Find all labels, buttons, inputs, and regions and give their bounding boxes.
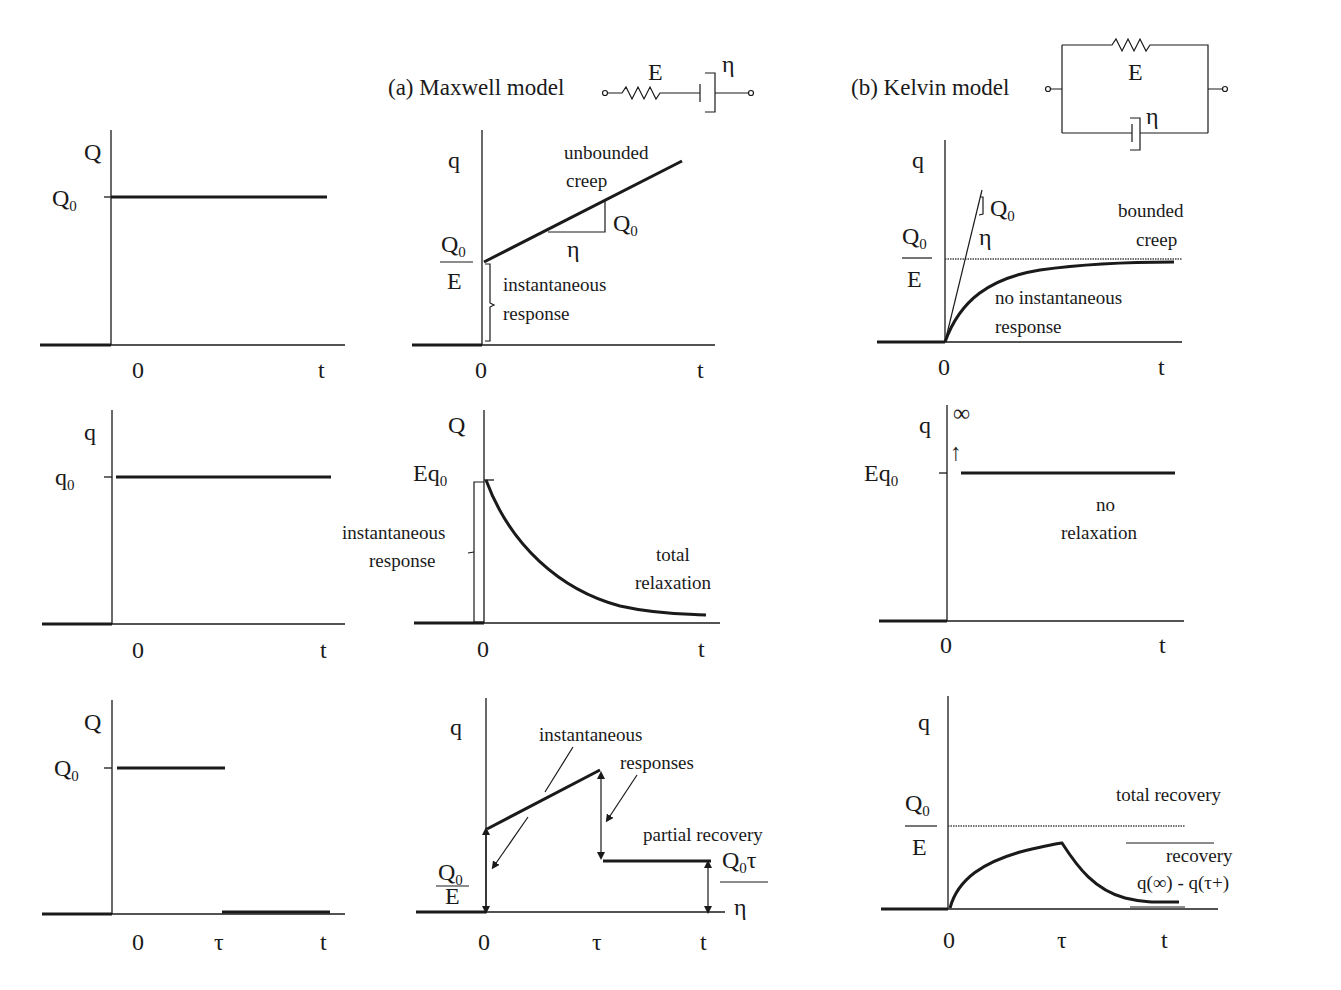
x-tick-tau: τ — [214, 929, 224, 955]
svg-text:η: η — [734, 894, 747, 920]
y-axis-label: Q — [448, 412, 465, 438]
x-axis-label: t — [697, 357, 704, 383]
x-tick-tau: τ — [592, 929, 602, 955]
y-tick-Q0-over-E: Q0 E E — [436, 859, 469, 909]
x-axis-label: t — [698, 636, 705, 662]
x-axis-label: t — [1161, 927, 1168, 953]
svg-text:E: E — [912, 834, 927, 860]
y-axis-label: q — [84, 419, 96, 445]
annotation-recovery-expr: q(∞) - q(τ+) — [1137, 872, 1229, 894]
y-tick-Q0-over-E: Q0 E — [902, 223, 932, 292]
kelvin-title: (b) Kelvin model — [851, 75, 1009, 100]
maxwell-spring-label: E — [648, 59, 663, 85]
kelvin-title-group: (b) Kelvin model E η — [851, 39, 1228, 150]
annotation-total: total — [656, 544, 690, 565]
slope-Q0: Q0 — [613, 210, 638, 239]
panel-relaxation-input: q q0 0 t — [42, 410, 345, 663]
panel-kelvin-creep: q Q0 E Q0 η bounded creep no instantaneo… — [877, 140, 1184, 380]
y-axis-label: q — [918, 709, 930, 735]
annotation-response: response — [995, 316, 1061, 337]
up-arrow-icon: ↑ — [950, 439, 962, 465]
y-axis-label: q — [450, 714, 462, 740]
y-tick-Eq0: Eq0 — [413, 460, 447, 489]
svg-text:Q0: Q0 — [441, 231, 466, 260]
slope-eta: η — [979, 224, 992, 250]
kelvin-dashpot-label: η — [1146, 103, 1159, 129]
annotation-responses: responses — [620, 752, 694, 773]
svg-text:Q0τ: Q0τ — [722, 847, 757, 876]
kelvin-model-icon: E η — [1046, 39, 1228, 150]
annotation-total-recovery: total recovery — [1116, 784, 1221, 805]
panel-maxwell-creep: q Q0 E unbounded creep Q0 η instantaneou… — [412, 130, 715, 383]
annotation-partial-recovery: partial recovery — [643, 824, 763, 845]
svg-text:Q0: Q0 — [905, 790, 930, 819]
annotation-creep: creep — [566, 170, 607, 191]
annotation-no-instantaneous: no instantaneous — [995, 287, 1122, 308]
svg-text:E: E — [445, 883, 460, 909]
x-tick-0: 0 — [132, 357, 144, 383]
x-tick-0: 0 — [475, 357, 487, 383]
slope-Q0: Q0 — [990, 195, 1015, 224]
x-tick-0: 0 — [938, 354, 950, 380]
y-axis-label: q — [912, 147, 924, 173]
panel-maxwell-recovery: q Q0 E E instantaneous responses partial… — [416, 698, 768, 955]
x-axis-label: t — [1159, 632, 1166, 658]
panel-kelvin-recovery: q Q0 E total recovery recovery q(∞) - q(… — [881, 696, 1233, 953]
kelvin-spring-label: E — [1128, 59, 1143, 85]
x-axis-label: t — [320, 637, 327, 663]
maxwell-model-icon: E η — [603, 51, 754, 112]
x-axis-label: t — [320, 929, 327, 955]
annotation-creep: creep — [1136, 229, 1177, 250]
annotation-instantaneous: instantaneous — [342, 522, 445, 543]
x-tick-0: 0 — [132, 637, 144, 663]
maxwell-dashpot-label: η — [722, 51, 735, 77]
annotation-relaxation: relaxation — [1061, 522, 1137, 543]
annotation-instantaneous: instantaneous — [539, 724, 642, 745]
annotation-no: no — [1096, 494, 1115, 515]
annotation-bounded: bounded — [1118, 200, 1184, 221]
panel-kelvin-relaxation: q ∞ ↑ Eq0 no relaxation 0 t — [864, 400, 1184, 658]
x-tick-0: 0 — [477, 636, 489, 662]
x-tick-0: 0 — [940, 632, 952, 658]
x-tick-tau: τ — [1057, 927, 1067, 953]
x-axis-label: t — [1158, 354, 1165, 380]
y-tick-Q0-over-E: Q0 E — [440, 231, 473, 294]
label-Q0-tau-over-eta: Q0τ η — [720, 847, 768, 920]
annotation-relaxation: relaxation — [635, 572, 711, 593]
x-tick-0: 0 — [132, 929, 144, 955]
y-axis-label: Q — [84, 139, 101, 165]
panel-maxwell-relaxation: Q Eq0 instantaneous response total relax… — [342, 410, 720, 662]
infinity-label: ∞ — [953, 400, 970, 426]
panel-recovery-input: Q Q0 0 τ t — [42, 700, 345, 955]
y-axis-label: Q — [84, 709, 101, 735]
y-axis-label: q — [919, 412, 931, 438]
annotation-recovery: recovery — [1166, 845, 1233, 866]
y-tick-q0: q0 — [55, 464, 75, 493]
x-axis-label: t — [318, 357, 325, 383]
svg-text:E: E — [447, 268, 462, 294]
x-axis-label: t — [700, 929, 707, 955]
y-axis-label: q — [448, 147, 460, 173]
maxwell-title-group: (a) Maxwell model E η — [388, 51, 754, 112]
panel-creep-input: Q Q0 0 t — [40, 130, 345, 383]
y-tick-Eq0: Eq0 — [864, 460, 898, 489]
y-tick-Q0: Q0 — [54, 755, 79, 784]
y-tick-Q0-over-E: Q0 E — [905, 790, 937, 860]
x-tick-0: 0 — [478, 929, 490, 955]
slope-eta: η — [567, 236, 580, 262]
maxwell-title: (a) Maxwell model — [388, 75, 564, 100]
annotation-unbounded: unbounded — [564, 142, 649, 163]
x-tick-0: 0 — [943, 927, 955, 953]
svg-text:Q0: Q0 — [902, 223, 927, 252]
annotation-response: response — [369, 550, 435, 571]
annotation-instantaneous: instantaneous — [503, 274, 606, 295]
y-tick-Q0: Q0 — [52, 185, 77, 214]
viscoelastic-models-diagram: (a) Maxwell model E η (b) Kelvin model E… — [0, 0, 1341, 990]
svg-text:E: E — [907, 266, 922, 292]
annotation-response: response — [503, 303, 569, 324]
